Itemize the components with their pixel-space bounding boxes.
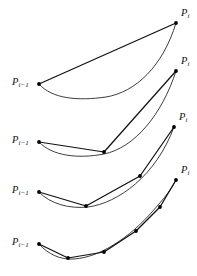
stage-4-vertex xyxy=(174,178,178,182)
stage-2-vertex xyxy=(174,69,178,73)
label-subscript: i−1 xyxy=(18,241,28,249)
stage-2-group xyxy=(37,69,178,156)
stage-1-vertex xyxy=(174,21,178,25)
stage-4-vertex xyxy=(102,250,106,254)
stage-2-vertex xyxy=(37,140,41,144)
label-subscript: i xyxy=(187,12,189,20)
stage-1-end-label: Pi xyxy=(181,8,189,20)
figure-canvas xyxy=(0,0,197,276)
stage-2-end-label: Pi xyxy=(181,56,189,68)
stage-3-chord xyxy=(39,127,174,206)
label-subscript: i−1 xyxy=(18,139,28,147)
stage-3-vertex xyxy=(84,204,88,208)
stage-3-vertex xyxy=(172,125,176,129)
stage-4-vertex xyxy=(66,256,70,260)
stage-4-curve xyxy=(39,180,176,259)
stage-1-chord xyxy=(39,23,176,84)
stage-4-start-label: Pi−1 xyxy=(12,237,29,249)
label-subscript: i xyxy=(187,60,189,68)
stage-3-curve xyxy=(39,127,174,207)
stage-1-curve xyxy=(39,23,176,99)
stage-2-chord xyxy=(39,71,176,152)
label-subscript: i−1 xyxy=(18,189,28,197)
label-subscript: i xyxy=(185,116,187,124)
stage-1-start-label: Pi−1 xyxy=(12,77,29,89)
stage-4-end-label: Pi xyxy=(181,165,189,177)
stage-2-start-label: Pi−1 xyxy=(12,135,29,147)
stage-3-end-label: Pi xyxy=(179,112,187,124)
subdivision-figure: Pi−1 Pi Pi−1 Pi Pi−1 Pi Pi−1 Pi xyxy=(0,0,197,276)
label-subscript: i xyxy=(187,169,189,177)
stage-3-group xyxy=(37,125,176,208)
stage-1-group xyxy=(37,21,178,99)
label-subscript: i−1 xyxy=(18,81,28,89)
stage-2-curve xyxy=(39,71,176,156)
stage-4-group xyxy=(37,178,178,260)
stage-3-vertex xyxy=(138,174,142,178)
stage-4-vertex xyxy=(37,242,41,246)
stage-4-chord xyxy=(39,180,176,258)
stage-3-start-label: Pi−1 xyxy=(12,185,29,197)
stage-3-vertex xyxy=(37,190,41,194)
stage-4-vertex xyxy=(134,229,138,233)
stage-2-vertex xyxy=(102,150,106,154)
stage-1-vertex xyxy=(37,82,41,86)
stage-4-vertex xyxy=(158,205,162,209)
